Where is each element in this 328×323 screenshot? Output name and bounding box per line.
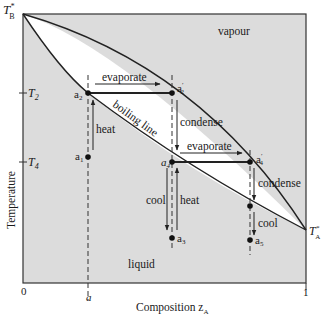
heat-label-1: heat (96, 123, 116, 135)
heat-label-2: heat (180, 194, 200, 206)
x-tick-0: 0 (21, 285, 27, 297)
evaporate-label-2: evaporate (187, 140, 232, 153)
point-label-a4p: a′4 (256, 152, 263, 167)
cool-label-2: cool (258, 217, 278, 229)
point-label-a2p: a′2 (177, 81, 184, 96)
region-label-vapour: vapour (218, 25, 250, 38)
region-label-liquid: liquid (128, 258, 155, 271)
point-a1 (85, 154, 91, 160)
point-a4 (169, 159, 175, 165)
phase-diagram: T*B T*A T2 T4 Temperature Composition zA… (0, 0, 328, 323)
condense-label-1: condense (180, 116, 223, 128)
point-a5 (247, 237, 253, 243)
condense-label-2: condense (258, 177, 301, 189)
diagram-canvas: T*B T*A T2 T4 Temperature Composition zA… (0, 0, 328, 323)
x-axis-label: Composition zA (136, 301, 208, 316)
point-condense-end (247, 203, 253, 209)
point-a2 (85, 90, 91, 96)
x-tick-1: 1 (303, 286, 309, 298)
y-axis-label: Temperature (5, 171, 18, 229)
label-TB: T*B (3, 2, 15, 21)
point-a3 (169, 235, 175, 241)
cool-label-1: cool (146, 194, 166, 206)
label-TA: T*A (309, 224, 320, 241)
point-a4p (247, 159, 253, 165)
point-a2p (169, 90, 175, 96)
evaporate-label-1: evaporate (102, 71, 147, 84)
x-tick-a: a (86, 291, 92, 303)
